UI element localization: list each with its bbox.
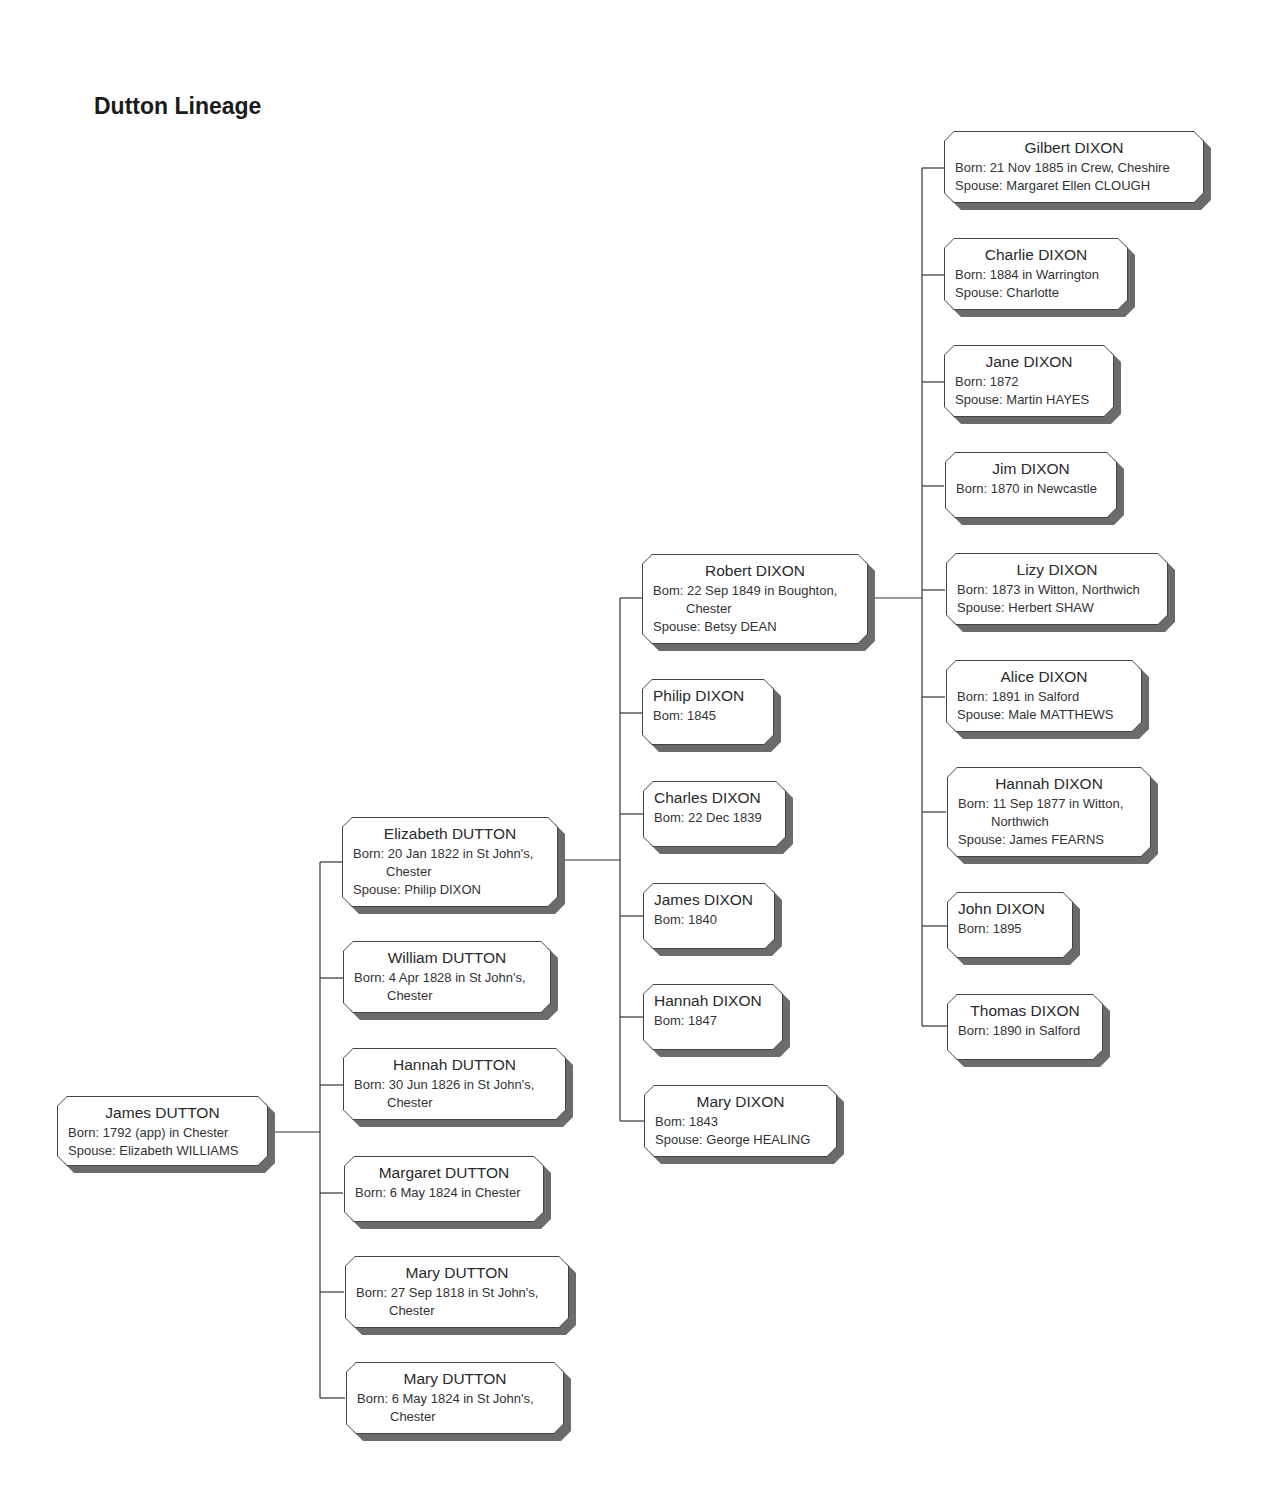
person-box-william-dutton[interactable]: William DUTTON Born: 4 Apr 1828 in St Jo… xyxy=(343,941,551,1013)
spouse-info: Spouse: Martin HAYES xyxy=(955,391,1103,409)
person-box-charles-dixon[interactable]: Charles DIXON Bom: 22 Dec 1839 xyxy=(643,781,786,847)
spouse-info: Spouse: Elizabeth WILLIAMS xyxy=(68,1142,257,1160)
birth-info: Born: 21 Nov 1885 in Crew, Cheshire xyxy=(955,159,1193,177)
birth-info: Born: 1890 in Salford xyxy=(958,1022,1092,1040)
person-box-alice-dixon[interactable]: Alice DIXON Born: 1891 in Salford Spouse… xyxy=(946,660,1142,732)
person-box-charlie-dixon[interactable]: Charlie DIXON Born: 1884 in Warrington S… xyxy=(944,238,1128,310)
person-name: Mary DIXON xyxy=(655,1092,826,1111)
birth-info: Born: 4 Apr 1828 in St John's, xyxy=(354,969,540,987)
birth-place-continued: Chester xyxy=(354,987,540,1005)
person-name: Hannah DUTTON xyxy=(354,1055,555,1074)
birth-info: Bom: 1845 xyxy=(653,707,763,725)
person-name: Thomas DIXON xyxy=(958,1001,1092,1020)
person-name: Margaret DUTTON xyxy=(355,1163,533,1182)
birth-info: Bom: 1847 xyxy=(654,1012,772,1030)
birth-info: Born: 1873 in Witton, Northwich xyxy=(957,581,1157,599)
birth-info: Bom: 1843 xyxy=(655,1113,826,1131)
person-box-mary-dixon[interactable]: Mary DIXON Bom: 1843 Spouse: George HEAL… xyxy=(644,1085,837,1157)
person-box-jane-dixon[interactable]: Jane DIXON Born: 1872 Spouse: Martin HAY… xyxy=(944,345,1114,417)
birth-info: Bom: 22 Sep 1849 in Boughton, xyxy=(653,582,857,600)
spouse-info: Spouse: George HEALING xyxy=(655,1131,826,1149)
person-name: Mary DUTTON xyxy=(357,1369,553,1388)
person-box-hannah-dixon-1877[interactable]: Hannah DIXON Born: 11 Sep 1877 in Witton… xyxy=(947,767,1151,857)
person-box-james-dutton[interactable]: James DUTTON Born: 1792 (app) in Chester… xyxy=(57,1096,268,1166)
spouse-info: Spouse: Betsy DEAN xyxy=(653,618,857,636)
person-name: Hannah DIXON xyxy=(654,991,772,1010)
person-name: Elizabeth DUTTON xyxy=(353,824,547,843)
person-name: Lizy DIXON xyxy=(957,560,1157,579)
person-name: Hannah DIXON xyxy=(958,774,1140,793)
person-box-lizy-dixon[interactable]: Lizy DIXON Born: 1873 in Witton, Northwi… xyxy=(946,553,1168,625)
person-box-jim-dixon[interactable]: Jim DIXON Born: 1870 in Newcastle xyxy=(945,452,1117,518)
person-name: William DUTTON xyxy=(354,948,540,967)
person-box-gilbert-dixon[interactable]: Gilbert DIXON Born: 21 Nov 1885 in Crew,… xyxy=(944,131,1204,203)
person-name: Philip DIXON xyxy=(653,686,763,705)
spouse-info: Spouse: James FEARNS xyxy=(958,831,1140,849)
birth-info: Bom: 22 Dec 1839 xyxy=(654,809,775,827)
person-name: James DIXON xyxy=(654,890,764,909)
birth-place-continued: Chester xyxy=(353,863,547,881)
birth-place-continued: Chester xyxy=(653,600,857,618)
person-box-mary-dutton-1824[interactable]: Mary DUTTON Born: 6 May 1824 in St John'… xyxy=(346,1362,564,1434)
person-box-robert-dixon[interactable]: Robert DIXON Bom: 22 Sep 1849 in Boughto… xyxy=(642,554,868,644)
birth-info: Born: 6 May 1824 in Chester xyxy=(355,1184,533,1202)
person-box-john-dixon[interactable]: John DIXON Born: 1895 xyxy=(947,892,1073,958)
person-name: Gilbert DIXON xyxy=(955,138,1193,157)
birth-info: Born: 1884 in Warrington xyxy=(955,266,1117,284)
person-name: Mary DUTTON xyxy=(356,1263,558,1282)
person-name: Jim DIXON xyxy=(956,459,1106,478)
birth-info: Born: 27 Sep 1818 in St John's, xyxy=(356,1284,558,1302)
birth-info: Bom: 1840 xyxy=(654,911,764,929)
birth-place-continued: Northwich xyxy=(958,813,1140,831)
person-box-hannah-dutton[interactable]: Hannah DUTTON Born: 30 Jun 1826 in St Jo… xyxy=(343,1048,566,1120)
person-box-james-dixon[interactable]: James DIXON Bom: 1840 xyxy=(643,883,775,949)
spouse-info: Spouse: Male MATTHEWS xyxy=(957,706,1131,724)
person-name: James DUTTON xyxy=(68,1103,257,1122)
person-box-hannah-dixon-1847[interactable]: Hannah DIXON Bom: 1847 xyxy=(643,984,783,1050)
spouse-info: Spouse: Charlotte xyxy=(955,284,1117,302)
birth-info: Born: 1870 in Newcastle xyxy=(956,480,1106,498)
birth-info: Born: 20 Jan 1822 in St John's, xyxy=(353,845,547,863)
birth-info: Born: 1895 xyxy=(958,920,1062,938)
person-box-margaret-dutton[interactable]: Margaret DUTTON Born: 6 May 1824 in Ches… xyxy=(344,1156,544,1222)
birth-info: Born: 1792 (app) in Chester xyxy=(68,1124,257,1142)
person-name: Jane DIXON xyxy=(955,352,1103,371)
birth-place-continued: Chester xyxy=(354,1094,555,1112)
person-box-mary-dutton-1818[interactable]: Mary DUTTON Born: 27 Sep 1818 in St John… xyxy=(345,1256,569,1328)
person-name: Charles DIXON xyxy=(654,788,775,807)
birth-info: Born: 30 Jun 1826 in St John's, xyxy=(354,1076,555,1094)
person-name: John DIXON xyxy=(958,899,1062,918)
spouse-info: Spouse: Philip DIXON xyxy=(353,881,547,899)
person-name: Alice DIXON xyxy=(957,667,1131,686)
spouse-info: Spouse: Margaret Ellen CLOUGH xyxy=(955,177,1193,195)
birth-info: Born: 1891 in Salford xyxy=(957,688,1131,706)
person-name: Robert DIXON xyxy=(653,561,857,580)
spouse-info: Spouse: Herbert SHAW xyxy=(957,599,1157,617)
person-box-philip-dixon[interactable]: Philip DIXON Bom: 1845 xyxy=(642,679,774,745)
birth-info: Born: 6 May 1824 in St John's, xyxy=(357,1390,553,1408)
birth-info: Born: 11 Sep 1877 in Witton, xyxy=(958,795,1140,813)
birth-place-continued: Chester xyxy=(357,1408,553,1426)
person-name: Charlie DIXON xyxy=(955,245,1117,264)
birth-place-continued: Chester xyxy=(356,1302,558,1320)
birth-info: Born: 1872 xyxy=(955,373,1103,391)
person-box-thomas-dixon[interactable]: Thomas DIXON Born: 1890 in Salford xyxy=(947,994,1103,1060)
person-box-elizabeth-dutton[interactable]: Elizabeth DUTTON Born: 20 Jan 1822 in St… xyxy=(342,817,558,907)
connector-lines xyxy=(0,0,1269,1506)
